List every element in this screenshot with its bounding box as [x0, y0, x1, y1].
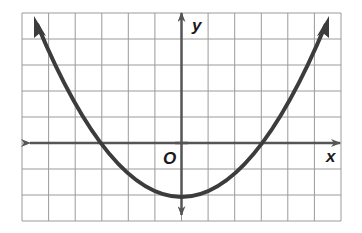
- axes: [30, 13, 340, 215]
- coordinate-plane: y x O: [0, 0, 362, 233]
- y-axis-label: y: [191, 16, 203, 35]
- origin-label: O: [163, 149, 176, 168]
- x-axis-label: x: [325, 147, 337, 166]
